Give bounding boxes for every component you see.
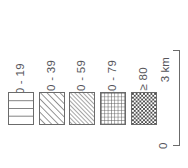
legend-class-item[interactable]: 40 - 59 [67, 4, 97, 164]
scale-bar-origin-label: 0 [156, 138, 172, 154]
legend-class-label: ≥ 80 [129, 4, 159, 84]
checkerboard-icon [132, 93, 156, 124]
scale-bar-rule [173, 50, 180, 146]
legend-class-label: 40 - 59 [67, 4, 97, 84]
grid-crosshatch-icon [101, 93, 125, 124]
diagonal-hatch-pattern-swatch[interactable] [39, 92, 65, 125]
legend-class-list: 0 - 19 20 - 39 [6, 4, 156, 164]
legend-class-item[interactable]: 0 - 19 [6, 4, 36, 164]
legend-class-label: 20 - 39 [37, 4, 67, 84]
horizontal-lines-pattern-swatch[interactable] [8, 92, 34, 125]
legend-class-item[interactable]: 60 - 79 [98, 4, 128, 164]
legend-class-item[interactable]: ≥ 80 [129, 4, 159, 164]
grid-crosshatch-pattern-swatch[interactable] [100, 92, 126, 125]
diagonal-hatch-dense-pattern-swatch[interactable] [69, 92, 95, 125]
legend-class-label: 0 - 19 [6, 4, 36, 84]
horizontal-lines-icon [9, 93, 33, 124]
scale-bar: 3 km 0 [158, 46, 188, 152]
diagonal-hatch-icon [40, 93, 64, 124]
map-legend-figure: 0 - 19 20 - 39 [0, 0, 188, 168]
legend-class-item[interactable]: 20 - 39 [37, 4, 67, 164]
scale-bar-distance-label: 3 km [156, 46, 174, 98]
legend-class-label-text: 0 - 19 [15, 63, 27, 94]
checkerboard-pattern-swatch[interactable] [131, 92, 157, 125]
diagonal-hatch-dense-icon [70, 93, 94, 124]
scale-bar-distance-text: 3 km [159, 57, 171, 82]
legend-class-label-text: ≥ 80 [138, 67, 150, 91]
scale-bar-origin-text: 0 [158, 143, 170, 149]
legend-class-label: 60 - 79 [98, 4, 128, 84]
